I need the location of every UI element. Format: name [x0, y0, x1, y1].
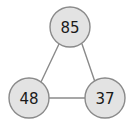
node-graph-diagram: 85 48 37 — [0, 0, 132, 126]
node-layer: 85 48 37 — [9, 7, 125, 118]
node-label-top: 85 — [60, 19, 79, 37]
edge-top-bottomright — [82, 44, 95, 82]
node-bottom-right[interactable]: 37 — [85, 78, 125, 118]
node-label-bottom-right: 37 — [95, 90, 114, 108]
edge-top-bottomleft — [41, 44, 59, 82]
node-label-bottom-left: 48 — [19, 90, 38, 108]
node-bottom-left[interactable]: 48 — [9, 78, 49, 118]
node-top[interactable]: 85 — [50, 7, 90, 47]
graph-canvas: 85 48 37 — [0, 0, 132, 126]
